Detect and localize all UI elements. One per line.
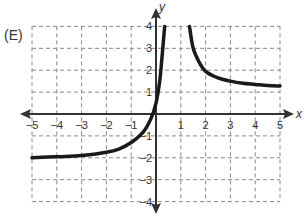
y-tick-label: 1	[146, 86, 152, 98]
y-tick-label: −3	[139, 174, 152, 186]
axes: xy	[20, 0, 303, 214]
x-tick-label: −1	[125, 119, 138, 131]
y-axis-label: y	[158, 0, 166, 14]
y-tick-label: 4	[146, 20, 152, 32]
y-tick-label: −2	[139, 152, 152, 164]
x-tick-label: 4	[252, 119, 258, 131]
x-tick-label: 1	[178, 119, 184, 131]
y-tick-label: 3	[146, 42, 152, 54]
y-tick-label: 2	[146, 64, 152, 76]
x-tick-label: −5	[26, 119, 39, 131]
x-tick-label: 2	[203, 119, 209, 131]
x-tick-label: 5	[277, 119, 283, 131]
x-axis-label: x	[295, 107, 303, 121]
x-tick-label: −4	[51, 119, 64, 131]
curve-right-branch	[189, 26, 280, 86]
function-graph: xy −5−4−3−2−112345−4−3−2−11234	[0, 0, 307, 216]
y-tick-label: −4	[139, 196, 152, 208]
x-tick-label: −2	[100, 119, 113, 131]
x-tick-label: 3	[227, 119, 233, 131]
x-tick-label: −3	[75, 119, 88, 131]
